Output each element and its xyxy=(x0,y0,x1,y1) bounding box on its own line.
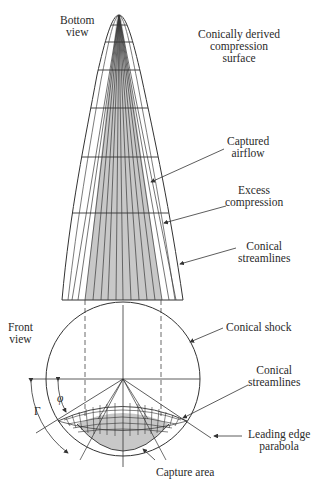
gamma-symbol: Γ xyxy=(34,405,41,417)
front-view-label: Front view xyxy=(8,321,33,345)
front-view xyxy=(30,302,211,467)
label-line: streamlines xyxy=(238,252,290,264)
label-line: view xyxy=(8,333,33,345)
label-line: compression xyxy=(198,40,280,52)
captured-airflow-label: Captured airflow xyxy=(227,135,269,159)
phi-symbol: φ xyxy=(57,392,63,404)
compression-surface-label: Conically derived compression surface xyxy=(198,28,280,64)
label-line: Conical xyxy=(238,240,290,252)
excess-compression-label: Excess compression xyxy=(225,184,283,208)
capture-area-label: Capture area xyxy=(156,466,214,478)
label-line: Conical shock xyxy=(226,321,291,333)
label-line: Conically derived xyxy=(198,28,280,40)
label-line: view xyxy=(60,26,95,38)
label-line: airflow xyxy=(227,147,269,159)
conical-streamlines-top-label: Conical streamlines xyxy=(238,240,290,264)
label-line: Excess xyxy=(225,184,283,196)
label-line: compression xyxy=(225,196,283,208)
leading-edge-parabola-label: Leading edge parabola xyxy=(248,428,310,452)
label-line: surface xyxy=(198,52,280,64)
label-line: streamlines xyxy=(248,376,300,388)
label-line: Conical xyxy=(248,364,300,376)
label-line: Capture area xyxy=(156,466,214,478)
label-line: Captured xyxy=(227,135,269,147)
bottom-view-label: Bottom view xyxy=(60,14,95,38)
label-line: Leading edge xyxy=(248,428,310,440)
bottom-view-planform xyxy=(40,15,200,300)
conical-shock-label: Conical shock xyxy=(226,321,291,333)
conical-streamlines-front-label: Conical streamlines xyxy=(248,364,300,388)
label-line: parabola xyxy=(248,440,310,452)
label-line: Front xyxy=(8,321,33,333)
label-line: Bottom xyxy=(60,14,95,26)
